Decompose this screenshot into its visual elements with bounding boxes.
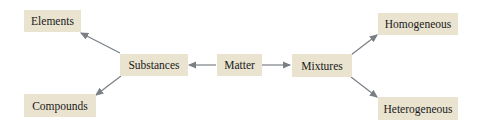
node-heterogeneous: Heterogeneous: [378, 97, 458, 120]
node-compounds: Compounds: [24, 94, 96, 117]
arrow-substances-to-compounds: [96, 76, 121, 95]
node-matter: Matter: [217, 54, 262, 76]
arrow-mixtures-to-heterogeneous: [351, 77, 377, 97]
node-substances: Substances: [120, 54, 188, 76]
node-homogeneous: Homogeneous: [378, 13, 458, 35]
arrow-substances-to-elements: [81, 33, 120, 53]
node-elements: Elements: [24, 10, 81, 32]
concept-map: Elements Compounds Substances Matter Mix…: [0, 0, 479, 127]
arrow-mixtures-to-homogeneous: [351, 35, 377, 55]
node-mixtures: Mixtures: [292, 54, 352, 77]
